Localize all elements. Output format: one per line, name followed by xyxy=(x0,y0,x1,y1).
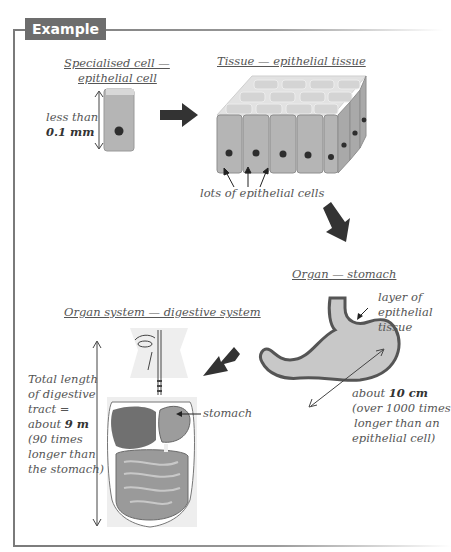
organ-size-line4: epithelial cell) xyxy=(352,431,435,446)
organ-layer-line1: layer of xyxy=(378,290,422,305)
epithelial-cell-icon xyxy=(104,89,134,151)
epithelial-tissue-icon xyxy=(217,76,366,187)
length-line5: (90 times xyxy=(28,432,83,447)
organ-layer-line3: tissue xyxy=(378,320,412,335)
length-line1: Total length xyxy=(28,372,98,387)
organ-size-value: 10 cm xyxy=(389,386,428,400)
organ-size-prefix: about xyxy=(352,386,389,400)
length-line2: of digestive xyxy=(28,387,96,402)
arrow-left-icon xyxy=(203,347,240,376)
length-line6: longer than xyxy=(28,447,96,462)
length-line4: about 9 m xyxy=(28,417,89,432)
digestive-system-icon xyxy=(107,328,197,527)
length-line3: tract = xyxy=(28,402,69,417)
cell-title-line1: Specialised cell — xyxy=(64,56,170,71)
digestive-length-arrow-icon xyxy=(93,341,101,526)
arrow-down-right-icon xyxy=(323,202,350,242)
length-value: 9 m xyxy=(65,417,89,431)
organ-size-line2: (over 1000 times xyxy=(352,401,451,416)
organ-system-title: Organ system — digestive system xyxy=(64,305,261,320)
organ-layer-line2: epithelial xyxy=(378,305,433,320)
tissue-caption: lots of epithelial cells xyxy=(200,186,324,201)
organ-size-line1: about 10 cm xyxy=(352,386,428,401)
stomach-label: stomach xyxy=(203,406,252,421)
cell-size-prefix: less than xyxy=(46,110,98,125)
length-prefix: about xyxy=(28,417,65,431)
organ-size-line3: longer than an xyxy=(354,416,440,431)
cell-size-value: 0.1 mm xyxy=(46,125,94,140)
tissue-title: Tissue — epithelial tissue xyxy=(217,54,366,69)
arrow-right-icon xyxy=(160,103,198,127)
cell-title-line2: epithelial cell xyxy=(78,71,157,86)
length-line7: the stomach) xyxy=(28,462,104,477)
layer-pointer-arrow-icon xyxy=(357,308,368,320)
organ-title: Organ — stomach xyxy=(292,267,396,282)
